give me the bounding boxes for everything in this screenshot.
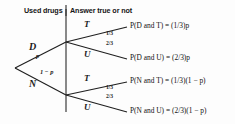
outcome-n-and-t-value: (1/3)(1 − p) [171,76,206,85]
outcome-d-and-u-event: P(D and U) [130,53,164,62]
header-used-drugs: Used drugs [24,7,63,14]
outcome-n-and-t-equals: = [165,76,169,85]
branch-d-to-u [66,42,127,59]
branch-root-to-d [15,42,66,68]
outcome-n-and-u-equals: = [166,106,170,115]
node-label-u-lower: U [84,103,91,112]
probability-tree-figure: Used drugs Answer true or not D p N 1 − … [0,0,235,124]
branch-frac-one-third-lower: 1/3 [106,85,113,91]
node-label-t-upper: T [84,20,90,29]
outcome-n-and-u-event: P(N and U) [130,106,164,115]
outcome-n-and-t-event: P(N and T) [130,76,163,85]
branch-n-to-t [66,82,127,95]
header-answer-true-or-not: Answer true or not [70,7,132,14]
outcome-d-and-t-event: P(D and T) [130,21,163,30]
outcome-n-and-u: P(N and U) = (2/3)(1 − p) [130,107,207,114]
node-label-u-upper: U [84,50,91,59]
outcome-n-and-u-value: (2/3)(1 − p) [172,106,207,115]
outcome-d-and-t-value: (1/3)p [171,21,189,30]
node-label-d: D [29,42,36,52]
node-label-n: N [29,79,36,89]
outcome-d-and-t: P(D and T) = (1/3)p [130,22,189,29]
outcome-d-and-u: P(D and U) = (2/3)p [130,54,190,61]
branch-frac-two-thirds-lower: 2/3 [106,94,113,100]
outcome-d-and-t-equals: = [165,21,169,30]
branch-prob-one-minus-p: 1 − p [40,69,53,75]
branch-d-to-t [66,27,127,42]
branch-n-to-u [66,95,127,112]
branch-prob-p: p [36,53,39,59]
outcome-n-and-t: P(N and T) = (1/3)(1 − p) [130,77,206,84]
outcome-d-and-u-value: (2/3)p [172,53,190,62]
node-label-t-lower: T [84,74,90,83]
outcome-d-and-u-equals: = [166,53,170,62]
branch-frac-one-third-upper: 1/3 [106,31,113,37]
branch-frac-two-thirds-upper: 2/3 [106,41,113,47]
